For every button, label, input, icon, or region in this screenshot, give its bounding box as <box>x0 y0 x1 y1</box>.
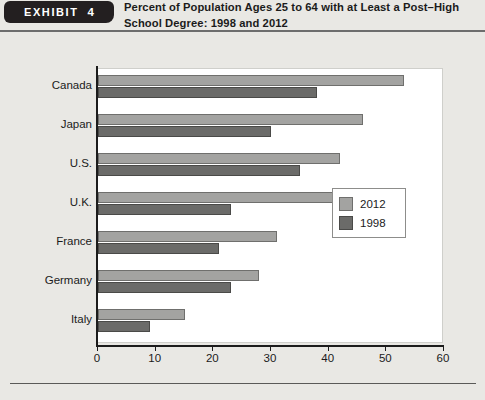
bar-france-2012[interactable] <box>98 231 277 242</box>
legend-item-1998[interactable]: 1998 <box>339 213 399 232</box>
legend-label-2012: 2012 <box>360 198 386 210</box>
legend-label-1998: 1998 <box>360 217 386 229</box>
bar-italy-2012[interactable] <box>98 309 185 320</box>
x-tick-label: 60 <box>428 352 458 364</box>
bar-italy-1998[interactable] <box>98 321 150 332</box>
x-tick-label: 20 <box>197 352 227 364</box>
category-label: Canada <box>52 79 92 91</box>
bar-japan-1998[interactable] <box>98 126 271 137</box>
exhibit-badge: EXHIBIT 4 <box>4 1 114 23</box>
x-tick <box>97 346 98 351</box>
header-divider <box>0 30 485 32</box>
x-tick <box>270 346 271 351</box>
bar-uk-1998[interactable] <box>98 204 231 215</box>
x-tick <box>155 346 156 351</box>
bar-us-2012[interactable] <box>98 153 340 164</box>
exhibit-number: 4 <box>88 6 94 18</box>
x-tick <box>443 346 444 351</box>
x-tick-label: 40 <box>313 352 343 364</box>
x-tick-label: 10 <box>140 352 170 364</box>
category-label: Italy <box>71 313 92 325</box>
bar-germany-1998[interactable] <box>98 282 231 293</box>
category-label: Germany <box>45 274 92 286</box>
category-label: Japan <box>61 118 92 130</box>
chart-legend: 2012 1998 <box>332 188 406 238</box>
x-tick <box>328 346 329 351</box>
bar-canada-2012[interactable] <box>98 75 404 86</box>
exhibit-label: EXHIBIT <box>24 6 79 18</box>
category-label: U.K. <box>70 196 92 208</box>
category-label: U.S. <box>70 157 92 169</box>
legend-swatch-1998-icon <box>339 216 353 230</box>
x-tick-label: 0 <box>82 352 112 364</box>
bar-uk-2012[interactable] <box>98 192 334 203</box>
legend-swatch-2012-icon <box>339 197 353 211</box>
category-label: France <box>56 235 92 247</box>
bar-canada-1998[interactable] <box>98 87 317 98</box>
x-tick-label: 50 <box>370 352 400 364</box>
bar-chart: CanadaJapanU.S.U.K.FranceGermanyItaly 01… <box>0 40 485 370</box>
bar-france-1998[interactable] <box>98 243 219 254</box>
footer-divider <box>10 383 476 384</box>
bar-japan-2012[interactable] <box>98 114 363 125</box>
legend-item-2012[interactable]: 2012 <box>339 194 399 213</box>
x-tick <box>212 346 213 351</box>
x-tick <box>385 346 386 351</box>
exhibit-header: EXHIBIT 4 Percent of Population Ages 25 … <box>0 0 485 40</box>
x-tick-label: 30 <box>255 352 285 364</box>
exhibit-title: Percent of Population Ages 25 to 64 with… <box>124 0 480 31</box>
bar-us-1998[interactable] <box>98 165 300 176</box>
bar-germany-2012[interactable] <box>98 270 259 281</box>
